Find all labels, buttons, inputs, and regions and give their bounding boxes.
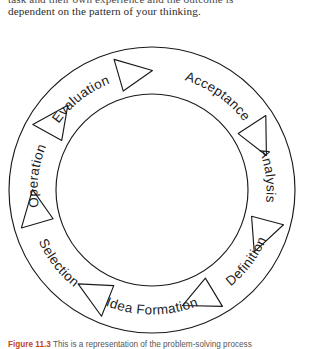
- segment-label: Acceptance: [183, 69, 253, 124]
- segment-label: Operation: [25, 142, 49, 209]
- figure-caption-text: This is a representation of the problem-…: [53, 340, 252, 349]
- segment-label: Evaluation: [49, 72, 112, 125]
- body-text-line-1: dependent on the pattern of your thinkin…: [8, 5, 306, 18]
- cycle-segment-analysis: Analysis: [251, 133, 283, 252]
- cycle-segment-idea-formation: Idea Formation: [78, 284, 201, 318]
- cycle-segments: AcceptanceAnalysisDefinitionIdea Formati…: [21, 59, 283, 317]
- cycle-diagram: AcceptanceAnalysisDefinitionIdea Formati…: [0, 38, 313, 338]
- segment-arrow-chevron-icon: [114, 59, 152, 91]
- segment-arrow-chevron-icon: [78, 284, 114, 316]
- outer-ring-circle: [9, 47, 295, 333]
- figure-number: Figure 11.3: [8, 340, 51, 349]
- figure-caption: Figure 11.3 This is a representation of …: [8, 340, 308, 349]
- cycle-segment-acceptance: Acceptance: [176, 69, 267, 156]
- cycle-diagram-svg: AcceptanceAnalysisDefinitionIdea Formati…: [0, 38, 313, 338]
- segment-label: Idea Formation: [104, 294, 200, 317]
- inner-ring-circle: [56, 94, 248, 286]
- page-root: task and their own experience and the ou…: [0, 0, 313, 349]
- segment-label: Analysis: [257, 147, 279, 204]
